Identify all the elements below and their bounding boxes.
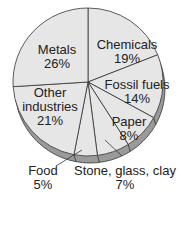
label-other-pct: 21% (22, 114, 78, 128)
label-fossil-fuels: Fossil fuels 14% (104, 78, 169, 106)
label-food-name: Food (28, 164, 58, 178)
label-fossil-pct: 14% (104, 92, 169, 106)
label-metals: Metals 26% (38, 43, 76, 71)
label-paper: Paper 8% (112, 115, 147, 143)
label-food: Food 5% (28, 164, 58, 192)
label-chemicals-pct: 19% (97, 52, 158, 66)
label-other-line1: Other (22, 86, 78, 100)
label-metals-name: Metals (38, 43, 76, 57)
label-stone-glass-clay: Stone, glass, clay 7% (74, 164, 176, 192)
label-fossil-name: Fossil fuels (104, 78, 169, 92)
label-paper-pct: 8% (112, 129, 147, 143)
label-other-industries: Other industries 21% (22, 86, 78, 128)
label-chemicals: Chemicals 19% (97, 38, 158, 66)
label-chemicals-name: Chemicals (97, 38, 158, 52)
label-paper-name: Paper (112, 115, 147, 129)
label-other-line2: industries (22, 100, 78, 114)
label-metals-pct: 26% (38, 57, 76, 71)
label-stone-pct: 7% (74, 178, 176, 192)
label-food-pct: 5% (28, 178, 58, 192)
label-stone-name: Stone, glass, clay (74, 164, 176, 178)
